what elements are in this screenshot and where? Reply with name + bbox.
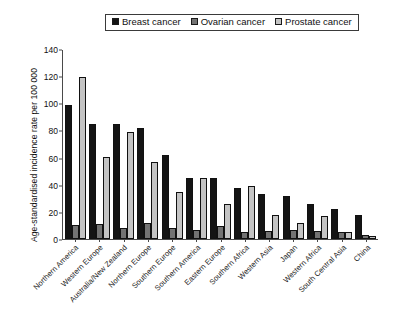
- x-label-slot: South Central Asia: [329, 241, 353, 321]
- bar-groups: [63, 50, 378, 239]
- bar-ovarian[interactable]: [217, 226, 224, 240]
- legend-item-prostate-cancer[interactable]: Prostate cancer: [275, 17, 352, 27]
- bar-prostate[interactable]: [127, 132, 134, 239]
- square-swatch-icon: [191, 18, 198, 25]
- y-tick-mark: [59, 50, 62, 51]
- legend-item-ovarian-cancer[interactable]: Ovarian cancer: [191, 17, 265, 27]
- bar-breast[interactable]: [89, 124, 96, 239]
- bar-ovarian[interactable]: [314, 231, 321, 239]
- x-tick-label: Japan: [278, 243, 299, 264]
- bar-group: [160, 50, 184, 239]
- bar-breast[interactable]: [355, 215, 362, 239]
- bar-breast[interactable]: [210, 178, 217, 239]
- y-tick-mark: [59, 131, 62, 132]
- bar-group: [233, 50, 257, 239]
- bar-ovarian[interactable]: [144, 223, 151, 239]
- bar-breast[interactable]: [186, 178, 193, 239]
- bar-group: [354, 50, 378, 239]
- bar-breast[interactable]: [65, 105, 72, 239]
- bar-prostate[interactable]: [248, 186, 255, 239]
- bar-breast[interactable]: [331, 209, 338, 239]
- bar-group: [87, 50, 111, 239]
- x-label-slot: Southern Africa: [232, 241, 256, 321]
- legend-label: Prostate cancer: [285, 17, 352, 27]
- legend-label: Ovarian cancer: [201, 17, 265, 27]
- bar-group: [63, 50, 87, 239]
- bar-group: [281, 50, 305, 239]
- bar-breast[interactable]: [137, 128, 144, 239]
- x-label-slot: Western Asia: [257, 241, 281, 321]
- bar-breast[interactable]: [234, 188, 241, 239]
- bar-ovarian[interactable]: [290, 230, 297, 239]
- y-tick-mark: [59, 158, 62, 159]
- bar-prostate[interactable]: [176, 192, 183, 239]
- bar-ovarian[interactable]: [241, 232, 248, 239]
- bar-ovarian[interactable]: [338, 232, 345, 239]
- chart-legend: Breast cancer Ovarian cancer Prostate ca…: [105, 14, 359, 31]
- bar-prostate[interactable]: [297, 223, 304, 239]
- bar-prostate[interactable]: [321, 216, 328, 239]
- x-label-slot: China: [354, 241, 378, 321]
- bar-breast[interactable]: [307, 204, 314, 239]
- bar-breast[interactable]: [258, 194, 265, 239]
- square-swatch-icon: [112, 18, 119, 25]
- bar-prostate[interactable]: [272, 215, 279, 239]
- bar-prostate[interactable]: [103, 157, 110, 239]
- legend-item-breast-cancer[interactable]: Breast cancer: [112, 17, 181, 27]
- bar-group: [136, 50, 160, 239]
- bar-group: [305, 50, 329, 239]
- bar-ovarian[interactable]: [72, 225, 79, 239]
- bar-group: [111, 50, 135, 239]
- bar-ovarian[interactable]: [193, 230, 200, 239]
- bar-breast[interactable]: [283, 196, 290, 239]
- bar-prostate[interactable]: [79, 77, 86, 239]
- y-tick-mark: [59, 212, 62, 213]
- bar-prostate[interactable]: [369, 236, 376, 239]
- chart-figure: Breast cancer Ovarian cancer Prostate ca…: [0, 0, 397, 321]
- y-tick-mark: [59, 77, 62, 78]
- y-tick-mark: [59, 104, 62, 105]
- bar-group: [257, 50, 281, 239]
- bar-prostate[interactable]: [200, 178, 207, 239]
- bar-group: [208, 50, 232, 239]
- bar-ovarian[interactable]: [265, 231, 272, 239]
- y-tick-mark: [59, 185, 62, 186]
- bar-ovarian[interactable]: [96, 224, 103, 239]
- plot-area: 020406080100120140: [62, 50, 378, 240]
- bar-ovarian[interactable]: [120, 228, 127, 239]
- bar-prostate[interactable]: [224, 204, 231, 239]
- square-swatch-icon: [275, 18, 282, 25]
- bar-breast[interactable]: [113, 124, 120, 239]
- legend-label: Breast cancer: [122, 17, 181, 27]
- x-tick-label: China: [352, 243, 373, 264]
- bar-prostate[interactable]: [345, 232, 352, 239]
- bar-group: [184, 50, 208, 239]
- x-axis-labels: Northern AmericaWestern EuropeAustralia/…: [62, 241, 378, 321]
- bar-ovarian[interactable]: [169, 228, 176, 239]
- bar-group: [330, 50, 354, 239]
- bar-breast[interactable]: [162, 155, 169, 239]
- bar-prostate[interactable]: [151, 162, 158, 239]
- y-axis-title: Age-standardised incidence rate per 100 …: [29, 55, 39, 255]
